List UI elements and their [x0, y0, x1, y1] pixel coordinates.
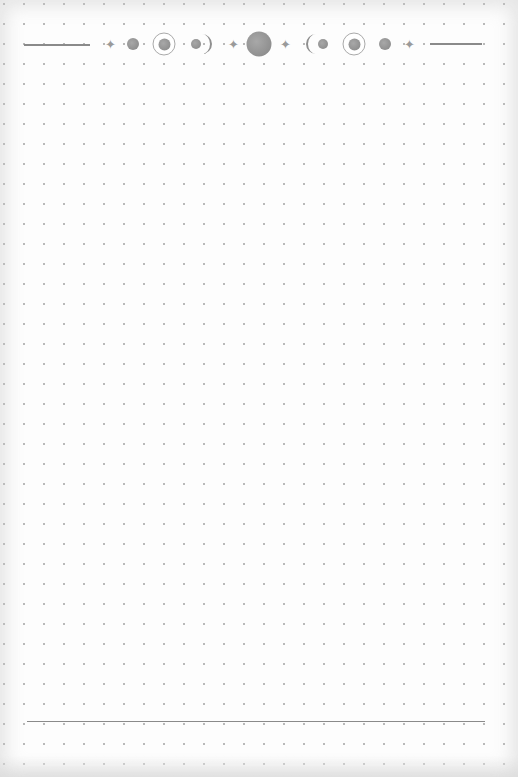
star-icon: ✦: [404, 38, 415, 51]
star-icon: ✦: [105, 38, 116, 51]
star-icon: ✦: [280, 38, 291, 51]
new-moon-dot-icon: [127, 38, 139, 50]
waxing-crescent-icon: [200, 33, 214, 55]
star-icon: ✦: [228, 38, 239, 51]
page-bottom-edge: [0, 755, 518, 777]
ringed-moon-icon: [343, 33, 366, 56]
ringed-moon-icon: [153, 33, 176, 56]
page-vignette: [0, 0, 518, 777]
new-moon-dot-icon: [379, 38, 391, 50]
footer-rule-line: [27, 721, 485, 722]
dot-grid-page: ✦ ✦ ✦ ✦: [0, 0, 518, 777]
left-rule-line: [24, 44, 90, 46]
waning-crescent-small-dot: [318, 39, 328, 49]
waning-crescent-icon: [304, 33, 318, 55]
full-moon-icon: [247, 32, 272, 57]
right-rule-line: [430, 43, 482, 45]
